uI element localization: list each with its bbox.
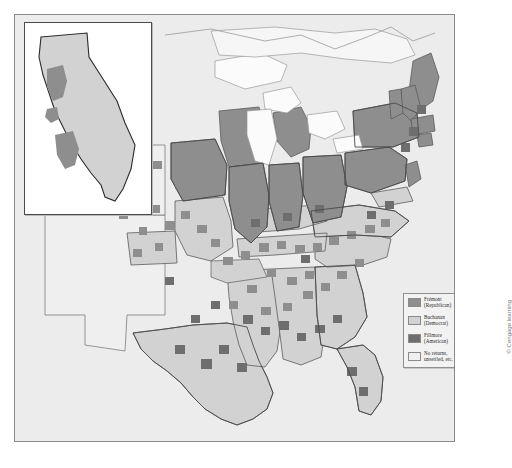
legend-swatch-no-returns xyxy=(408,352,421,361)
legend-swatch-buchanan xyxy=(408,316,421,325)
legend-item: Frémont(Republican) xyxy=(408,297,455,313)
legend-label-fillmore: Fillmore(American) xyxy=(424,333,448,344)
legend-label-buchanan: Buchanan(Democrat) xyxy=(424,315,448,326)
state-florida xyxy=(337,345,383,415)
state-michigan xyxy=(273,107,311,157)
california-inset-panel xyxy=(24,22,152,215)
legend-swatch-fremont xyxy=(408,298,421,307)
legend-swatch-fillmore xyxy=(408,334,421,343)
legend-item: Fillmore(American) xyxy=(408,333,455,349)
state-iowa xyxy=(171,139,227,201)
legend-label-no-returns: No returns,unsettled, etc. xyxy=(424,351,453,362)
copyright-notice: © Cengage learning xyxy=(506,300,512,353)
legend-label-fremont: Frémont(Republican) xyxy=(424,297,451,308)
state-pennsylvania xyxy=(345,147,407,193)
legend-item: Buchanan(Democrat) xyxy=(408,315,455,331)
map-legend: Frémont(Republican) Buchanan(Democrat) F… xyxy=(403,293,455,368)
california-highlight-mid xyxy=(45,107,59,123)
california-inset-svg xyxy=(25,23,151,214)
legend-item: No returns,unsettled, etc. xyxy=(408,351,455,367)
